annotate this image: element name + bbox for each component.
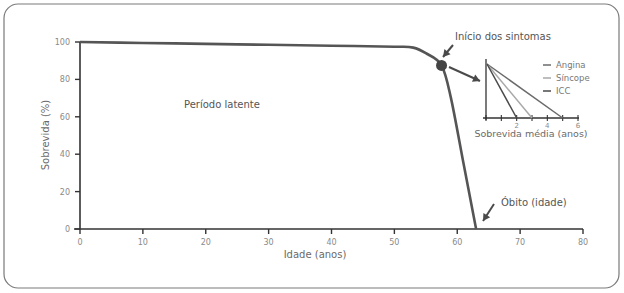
x-tick-label: 40 xyxy=(326,238,336,247)
y-tick-label: 0 xyxy=(65,225,70,234)
y-tick-label: 60 xyxy=(60,113,70,122)
y-axis-title: Sobrevida (%) xyxy=(40,100,51,171)
x-tick-label: 50 xyxy=(389,238,399,247)
chart-svg: 02040608010001020304050607080 Sobrevida … xyxy=(0,0,624,293)
x-tick-label: 80 xyxy=(578,238,588,247)
x-tick-label: 10 xyxy=(138,238,148,247)
symptom-onset-label: Início dos sintomas xyxy=(455,31,551,42)
x-tick-label: 60 xyxy=(452,238,462,247)
legend-label: Síncope xyxy=(556,73,590,83)
y-tick-label: 80 xyxy=(60,75,70,84)
latent-period-label: Período latente xyxy=(184,99,260,110)
x-axis-title: Idade (anos) xyxy=(284,249,347,260)
x-tick-label: 70 xyxy=(515,238,525,247)
death-age-label: Óbito (idade) xyxy=(501,196,567,208)
x-tick-label: 30 xyxy=(264,238,274,247)
y-tick-label: 100 xyxy=(55,38,70,47)
symptom-onset-dot xyxy=(436,60,447,71)
x-tick-label: 20 xyxy=(201,238,211,247)
y-tick-label: 20 xyxy=(60,188,70,197)
legend-label: ICC xyxy=(556,86,570,96)
y-tick-label: 40 xyxy=(60,150,70,159)
x-tick-label: 0 xyxy=(77,238,82,247)
survival-chart-figure: 02040608010001020304050607080 Sobrevida … xyxy=(0,0,624,293)
legend-label: Angina xyxy=(556,60,586,70)
inset-x-axis-title: Sobrevida média (anos) xyxy=(474,128,587,139)
